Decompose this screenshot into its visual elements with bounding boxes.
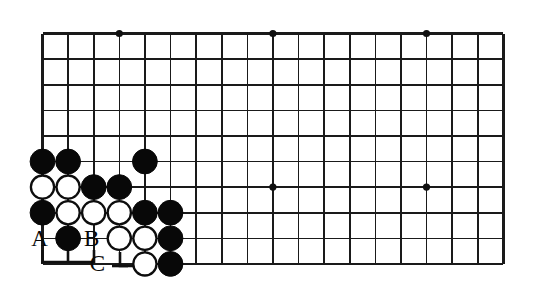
- stone-white[interactable]: [133, 252, 156, 275]
- stone-white[interactable]: [108, 201, 131, 224]
- stone-black[interactable]: [133, 200, 158, 225]
- label-b: B: [84, 226, 99, 251]
- star-point: [423, 184, 430, 191]
- star-point: [423, 30, 430, 37]
- label-a: A: [31, 226, 48, 251]
- go-board[interactable]: ABC: [0, 0, 534, 289]
- star-point: [116, 30, 123, 37]
- stone-black[interactable]: [158, 200, 183, 225]
- stone-black[interactable]: [56, 149, 81, 174]
- label-c: C: [90, 251, 105, 276]
- stone-white[interactable]: [57, 176, 80, 199]
- stone-white[interactable]: [108, 227, 131, 250]
- stone-black[interactable]: [107, 175, 132, 200]
- stone-white[interactable]: [82, 201, 105, 224]
- stone-white[interactable]: [133, 227, 156, 250]
- stone-black[interactable]: [158, 226, 183, 251]
- stone-black[interactable]: [30, 200, 55, 225]
- go-diagram-container: ABC: [0, 0, 534, 289]
- star-point: [269, 184, 276, 191]
- stone-white[interactable]: [31, 176, 54, 199]
- stone-black[interactable]: [30, 149, 55, 174]
- stone-black[interactable]: [158, 252, 183, 277]
- stone-black[interactable]: [56, 226, 81, 251]
- stone-white[interactable]: [57, 201, 80, 224]
- stone-black[interactable]: [133, 149, 158, 174]
- star-point: [269, 30, 276, 37]
- stone-black[interactable]: [81, 175, 106, 200]
